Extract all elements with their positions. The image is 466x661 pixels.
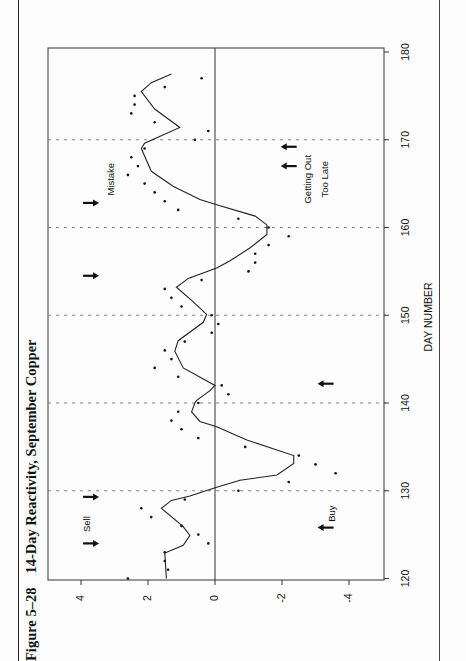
data-point (130, 156, 133, 159)
y-tick-label: -2 (275, 593, 287, 602)
arrow-head-icon (281, 163, 287, 170)
data-point (164, 200, 167, 203)
x-axis-day-number: 120130140150160170180 (384, 43, 411, 587)
data-point (217, 323, 220, 326)
data-point (143, 147, 146, 150)
data-point (207, 542, 210, 545)
data-point (184, 340, 187, 343)
data-point (133, 95, 136, 98)
day-gridlines (48, 140, 386, 491)
data-point (170, 296, 173, 299)
y-tick-label: -4 (342, 593, 354, 602)
data-point (177, 209, 180, 212)
data-point (197, 402, 200, 405)
y-tick-label: 4 (74, 595, 86, 601)
x-tick-label: 150 (399, 306, 411, 324)
reactivity-chart: 120130140150160170180 420-2-4 SellBuyMis… (0, 0, 466, 661)
data-point (287, 235, 290, 238)
data-point (194, 139, 197, 142)
data-point (177, 411, 180, 414)
data-point (227, 393, 230, 396)
annotation-label: Getting Out (302, 155, 313, 204)
smoothed-reactivity-line (141, 74, 293, 579)
data-point (130, 112, 133, 115)
data-point (150, 516, 153, 519)
data-point (143, 182, 146, 185)
data-point (237, 490, 240, 493)
data-point (170, 419, 173, 422)
data-point (164, 349, 167, 352)
data-point (197, 437, 200, 440)
data-point (244, 446, 247, 449)
data-point (298, 454, 301, 457)
data-point (254, 261, 257, 264)
data-point (164, 288, 167, 291)
data-point (177, 375, 180, 378)
data-point (254, 253, 257, 256)
y-axis-reactivity: 420-2-4 (74, 580, 354, 603)
x-tick-label: 120 (399, 570, 411, 588)
data-point (164, 551, 167, 554)
data-point (220, 384, 223, 387)
annotation-label: Too Late (319, 161, 330, 197)
plot-frame (48, 48, 384, 580)
data-point (314, 463, 317, 466)
y-tick-label: 0 (208, 595, 220, 601)
data-point (247, 270, 250, 273)
data-point (164, 86, 167, 89)
arrow-head-icon (318, 380, 324, 387)
data-point (133, 103, 136, 106)
data-point (180, 428, 183, 431)
data-point (167, 568, 170, 571)
data-point (184, 498, 187, 501)
data-point (210, 332, 213, 335)
book-page: Figure 5–2814-Day Reactivity, September … (0, 0, 466, 661)
data-point (127, 174, 130, 177)
signal-arrows (83, 143, 333, 547)
data-point (197, 533, 200, 536)
data-point (200, 77, 203, 80)
x-tick-label: 170 (399, 131, 411, 149)
data-point (140, 507, 143, 510)
arrow-head-icon (93, 540, 99, 547)
arrow-head-icon (93, 272, 99, 279)
data-point (334, 472, 337, 475)
annotation-label: Mistake (105, 163, 116, 196)
data-point (267, 244, 270, 247)
annotation-label: Sell (81, 516, 92, 532)
annotation-labels: SellBuyMistakeGetting OutToo Late (81, 155, 337, 532)
y-tick-label: 2 (141, 595, 153, 601)
annotation-label: Buy (326, 505, 337, 522)
data-point (237, 217, 240, 220)
arrow-head-icon (318, 524, 324, 531)
x-axis-title: DAY NUMBER (422, 282, 434, 351)
arrow-head-icon (93, 199, 99, 206)
data-point (207, 130, 210, 133)
data-point (200, 279, 203, 282)
arrow-head-icon (281, 143, 287, 150)
data-point (164, 560, 167, 563)
data-point (153, 367, 156, 370)
x-tick-label: 160 (399, 219, 411, 237)
x-tick-label: 130 (399, 482, 411, 500)
arrow-head-icon (93, 493, 99, 500)
data-point (287, 481, 290, 484)
data-point (153, 121, 156, 124)
data-point (153, 191, 156, 194)
data-point (170, 358, 173, 361)
data-point (180, 525, 183, 528)
x-tick-label: 180 (399, 43, 411, 61)
data-point (210, 314, 213, 317)
daily-reactivity-points (127, 77, 337, 580)
data-point (180, 305, 183, 308)
data-point (267, 226, 270, 229)
x-tick-label: 140 (399, 394, 411, 412)
data-point (127, 577, 130, 580)
data-point (137, 165, 140, 168)
